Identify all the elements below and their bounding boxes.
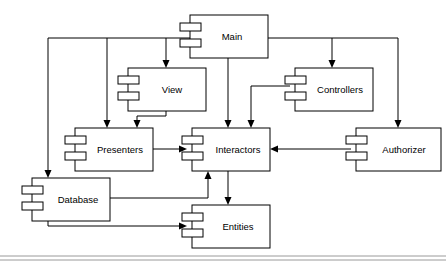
component-main-tab-bottom [180,39,201,47]
connector-database-to-interactors [110,177,208,198]
arrowhead-database-interactors [205,171,212,179]
component-interactors-tab-bottom [182,152,203,160]
component-entities-label: Entities [222,221,253,232]
connector-controllers-to-interactors [251,86,290,122]
component-database-label: Database [58,194,99,205]
component-entities-tab-top [182,213,203,221]
component-view[interactable]: View [118,68,206,111]
component-presenters-tab-top [65,136,86,144]
component-view-tab-bottom [118,92,139,100]
arrowhead-main-presenters [104,120,111,128]
component-presenters[interactable]: Presenters [65,128,153,171]
arrowhead-interactors-entities [225,197,232,205]
component-controllers-tab-bottom [285,92,306,100]
component-interactors-tab-top [182,136,203,144]
component-controllers-label: Controllers [317,84,363,95]
component-presenters-tab-bottom [65,152,86,160]
arrowhead-main-authorizer [395,120,402,128]
connector-database-to-entities [48,221,181,226]
component-main[interactable]: Main [180,15,268,58]
connector-view-to-presenters [137,111,166,122]
component-main-label: Main [222,31,243,42]
arrowhead-view-presenters [134,120,141,128]
component-entities[interactable]: Entities [182,205,270,248]
component-authorizer-tab-bottom [346,152,367,160]
diagram-canvas: Main View Controllers Presenters [0,0,446,264]
component-interactors[interactable]: Interactors [182,128,270,171]
component-database-tab-top [22,186,43,194]
arrowhead-main-view [163,60,170,68]
component-view-tab-top [118,76,139,84]
component-entities-tab-bottom [182,229,203,237]
arrowhead-main-database [45,170,52,178]
component-database[interactable]: Database [22,178,110,221]
component-controllers-tab-top [285,76,306,84]
component-authorizer-label: Authorizer [382,144,425,155]
component-database-tab-bottom [22,202,43,210]
component-diagram: Main View Controllers Presenters [0,0,446,264]
arrowhead-controllers-interactors [248,120,255,128]
component-main-tab-top [180,23,201,31]
arrowhead-presenters-interactors [179,146,187,153]
component-view-label: View [162,84,183,95]
page-rules [0,256,446,260]
component-authorizer-tab-top [346,136,367,144]
arrowhead-main-controllers [329,60,336,68]
component-interactors-label: Interactors [216,144,261,155]
component-authorizer[interactable]: Authorizer [346,128,441,171]
arrowhead-database-entities [179,223,187,230]
arrowhead-authorizer-interactors [270,146,278,153]
arrowhead-main-interactors [225,120,232,128]
component-presenters-label: Presenters [97,144,143,155]
component-controllers[interactable]: Controllers [285,68,373,111]
